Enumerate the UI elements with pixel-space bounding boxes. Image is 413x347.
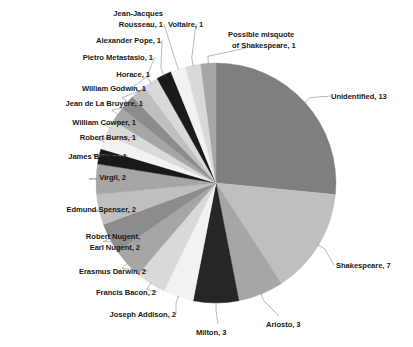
pie-chart-figure: Unidentified, 13 Shakespeare, 7 Ariosto,… [0, 0, 413, 347]
slice-label-horace: Horace, 1 [30, 70, 150, 80]
slice-label-unidentified: Unidentified, 13 [331, 92, 387, 102]
slice-label-william-godwin: William Godwin, 1 [10, 84, 146, 94]
leader-line [192, 24, 196, 66]
leader-line [164, 24, 179, 70]
leader-line [161, 40, 165, 76]
slice-label-voltaire: Voltaire, 1 [168, 20, 203, 30]
slice-label-joseph-addison: Joseph Addison, 2 [35, 310, 176, 320]
pie-slice [216, 63, 336, 195]
slice-label-possible-misquote-line2: of Shakespeare, 1 [232, 41, 296, 51]
slice-label-jean-de-la-bruyere: Jean de La Bruyère, 1 [2, 99, 143, 109]
slice-label-milton: Milton, 3 [196, 328, 226, 338]
slice-label-robert-burns: Robert Burns, 1 [10, 133, 136, 143]
slice-label-pietro-metastasio: Pietro Metastasio, 1 [10, 53, 153, 63]
slice-label-erasmus-darwin: Erasmus Darwin, 2 [8, 267, 146, 277]
slice-label-shakespeare: Shakespeare, 7 [336, 261, 391, 271]
leader-line [216, 302, 218, 324]
slice-label-james-beattie: James Beattie, 1 [6, 152, 127, 162]
slice-label-rousseau-line2: Rousseau, 1 [60, 20, 163, 30]
slice-label-francis-bacon: Francis Bacon, 2 [20, 288, 156, 298]
slice-label-edmund-spenser: Edmund Spenser, 2 [2, 205, 136, 215]
leader-line [318, 245, 334, 265]
slice-label-william-cowper: William Cowper, 1 [6, 118, 136, 128]
slice-label-alexander-pope: Alexander Pope, 1 [30, 36, 161, 46]
slice-label-robert-nugent-line2: Earl Nugent, 2 [8, 243, 140, 253]
slice-label-ariosto: Ariosto, 3 [266, 320, 301, 330]
slice-label-robert-nugent-line1: Robert Nugent, [8, 232, 140, 242]
slice-label-rousseau-line1: Jean-Jacques [60, 9, 163, 19]
leader-line [304, 96, 331, 103]
slice-label-possible-misquote-line1: Possible misquote [228, 30, 294, 40]
leader-line [261, 293, 279, 316]
leader-line [176, 296, 179, 314]
slice-label-virgil: Virgil, 2 [10, 173, 126, 183]
